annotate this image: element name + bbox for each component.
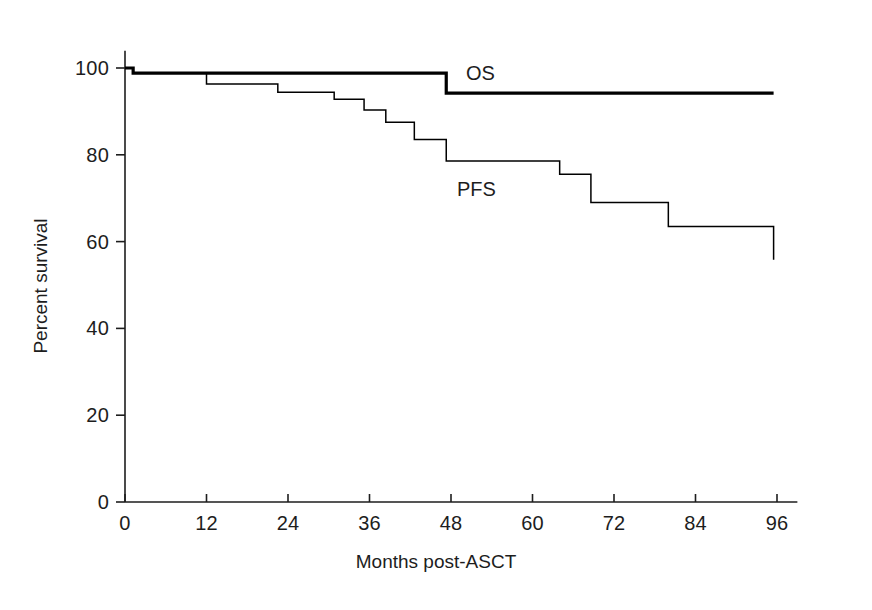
x-tick-label: 84 [684, 512, 707, 535]
x-tick-label: 48 [440, 512, 463, 535]
plot-canvas [0, 0, 872, 610]
y-tick-label: 0 [49, 491, 109, 514]
series-label-os: OS [466, 62, 495, 85]
axes [125, 51, 797, 502]
x-axis-title: Months post-ASCT [356, 551, 517, 573]
x-tick-label: 36 [358, 512, 381, 535]
series-label-pfs: PFS [457, 178, 496, 201]
x-tick-label: 60 [521, 512, 544, 535]
x-tick-label: 0 [119, 512, 130, 535]
y-tick-label: 20 [49, 404, 109, 427]
y-tick-label: 60 [49, 230, 109, 253]
x-tick-label: 12 [195, 512, 218, 535]
data-series [125, 68, 774, 260]
y-tick-label: 80 [49, 143, 109, 166]
tick-marks [116, 68, 777, 502]
y-axis-title: Percent survival [30, 218, 52, 353]
survival-curve-os [125, 68, 774, 93]
survival-curve-pfs [125, 68, 774, 260]
y-tick-label: 100 [49, 57, 109, 80]
x-tick-label: 96 [766, 512, 789, 535]
survival-chart-figure: 01224364860728496 020406080100 Months po… [0, 0, 872, 610]
x-tick-label: 24 [277, 512, 300, 535]
x-tick-label: 72 [603, 512, 626, 535]
y-tick-label: 40 [49, 317, 109, 340]
